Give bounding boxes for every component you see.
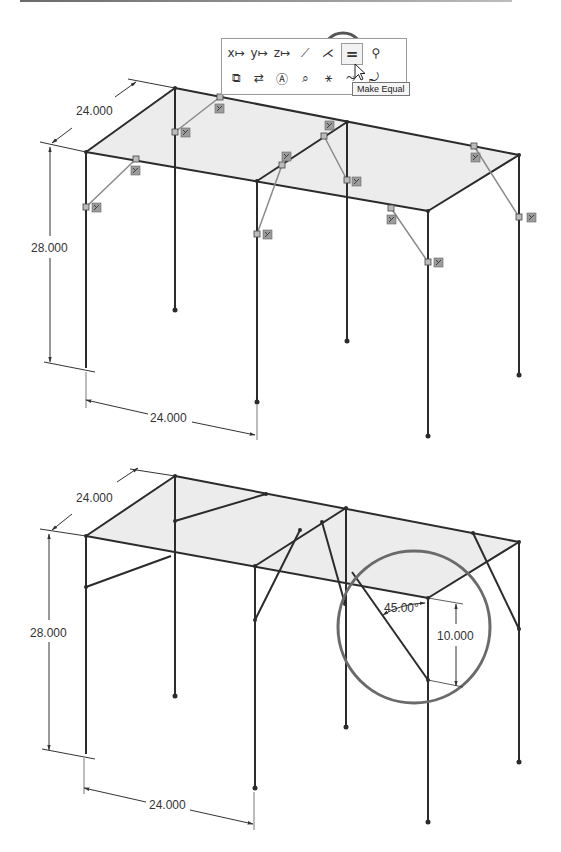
dimension-depth-value[interactable]: 24.000: [76, 491, 113, 505]
dimension-brace-drop-value[interactable]: 10.000: [437, 629, 474, 643]
dimension-width[interactable]: 24.000: [84, 758, 254, 830]
sketch-canvas: 24.000 28.000 24.000: [0, 0, 561, 852]
dimension-angle-value[interactable]: 45.00°: [384, 601, 419, 615]
dimension-depth-value[interactable]: 24.000: [76, 104, 113, 118]
smart-dimension-icon[interactable]: Ⓐ: [272, 68, 292, 88]
dimension-angle[interactable]: 45.00°: [383, 601, 425, 615]
dimension-brace-drop[interactable]: 10.000: [428, 598, 474, 687]
equal-icon[interactable]: =: [341, 43, 363, 65]
dimension-height-value[interactable]: 28.000: [31, 241, 68, 255]
collinear-line-icon[interactable]: ⟋: [295, 43, 315, 63]
zoom-selection-icon[interactable]: ⌕: [295, 68, 315, 88]
dimension-width-value[interactable]: 24.000: [149, 798, 186, 812]
dimension-height-value[interactable]: 28.000: [30, 626, 67, 640]
relations-display-icon[interactable]: ⚹: [318, 68, 338, 88]
fix-icon[interactable]: ⚲: [366, 43, 386, 63]
coincident-x-icon[interactable]: x↦: [226, 43, 246, 63]
bottom-view-frame: 45.00° 10.000 24.000 28.000: [30, 468, 522, 830]
coincident-y-icon[interactable]: y↦: [249, 43, 269, 63]
convert-entities-icon[interactable]: ⧉: [226, 68, 246, 88]
mouse-pointer-icon: [354, 63, 366, 81]
top-plane: [86, 476, 519, 598]
perpendicular-icon[interactable]: ⋌: [318, 43, 338, 63]
dimension-width[interactable]: 24.000: [86, 372, 257, 440]
parallel-icon[interactable]: ⇄: [249, 68, 269, 88]
coincident-z-icon[interactable]: z↦: [272, 43, 292, 63]
dimension-width-value[interactable]: 24.000: [150, 411, 187, 425]
tooltip-make-equal: Make Equal: [352, 82, 410, 96]
top-view-frame: 24.000 28.000 24.000: [31, 79, 536, 440]
